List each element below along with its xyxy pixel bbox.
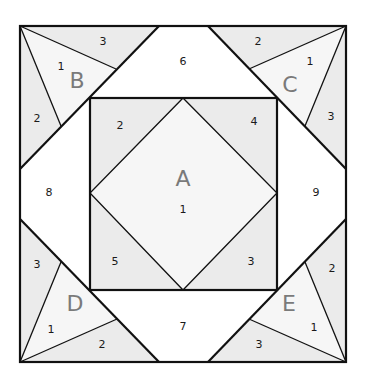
piece-label-9: 9 bbox=[313, 186, 320, 199]
piece-label-b2: 2 bbox=[34, 112, 41, 125]
piece-label-7: 7 bbox=[180, 320, 187, 333]
piece-label-c3: 3 bbox=[328, 110, 335, 123]
piece-label-e1: 1 bbox=[311, 321, 318, 334]
section-label-a: A bbox=[175, 166, 190, 191]
section-label-c: C bbox=[282, 72, 297, 97]
piece-label-d1: 1 bbox=[48, 323, 55, 336]
piece-label-c2: 2 bbox=[255, 35, 262, 48]
piece-label-a4: 4 bbox=[251, 115, 258, 128]
section-label-e: E bbox=[282, 291, 296, 316]
section-label-b: B bbox=[69, 68, 84, 93]
piece-label-e3: 3 bbox=[256, 338, 263, 351]
piece-label-a2: 2 bbox=[117, 119, 124, 132]
piece-label-c1: 1 bbox=[307, 55, 314, 68]
piece-label-a5: 5 bbox=[112, 255, 119, 268]
section-label-d: D bbox=[67, 291, 84, 316]
quilt-block-diagram: A 1 2 4 5 3 B 1 2 3 C 1 2 3 D 1 2 3 E 1 … bbox=[0, 0, 367, 384]
piece-label-d2: 2 bbox=[99, 338, 106, 351]
piece-label-b3: 3 bbox=[100, 35, 107, 48]
piece-label-6: 6 bbox=[180, 55, 187, 68]
piece-label-a1: 1 bbox=[180, 203, 187, 216]
piece-label-8: 8 bbox=[46, 186, 53, 199]
piece-label-e2: 2 bbox=[329, 262, 336, 275]
piece-label-a3: 3 bbox=[248, 255, 255, 268]
piece-label-b1: 1 bbox=[58, 60, 65, 73]
piece-label-d3: 3 bbox=[34, 258, 41, 271]
